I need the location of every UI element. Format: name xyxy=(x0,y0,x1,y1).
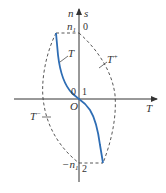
t-axis-label: T xyxy=(146,102,153,114)
t-plus-label-leader xyxy=(99,62,107,68)
n-axis-label: n xyxy=(68,7,74,19)
n-zero-label: 0 xyxy=(71,86,76,97)
t-minus-curve-label: T− xyxy=(30,110,41,122)
origin-label: O xyxy=(70,100,78,112)
s-one-label: 1 xyxy=(82,86,87,97)
s-two-label: 2 xyxy=(82,163,87,174)
s-axis-label: s xyxy=(84,7,88,19)
t-curve-label: T xyxy=(68,47,75,59)
t-label-leader xyxy=(60,56,68,62)
diagram-canvas: n s T O n1 0 0 1 −n1 2 T T+ T− xyxy=(0,0,166,193)
t-plus-curve-label: T+ xyxy=(107,53,118,65)
n1-top-label: n1 xyxy=(67,20,76,34)
s-zero-label: 0 xyxy=(83,21,88,32)
